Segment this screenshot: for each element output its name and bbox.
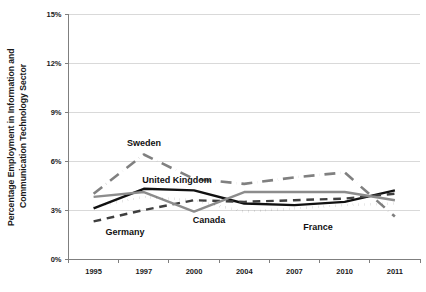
x-tick-label: 2011 [387, 267, 403, 276]
y-tick-label: 3% [51, 206, 62, 215]
x-tick-label: 1995 [85, 267, 102, 276]
x-tick-label: 2007 [286, 267, 303, 276]
x-tick-label: 2000 [186, 267, 203, 276]
y-tick-label: 12% [46, 59, 61, 68]
series-label-sweden: Sweden [127, 138, 161, 148]
x-tick-label: 1997 [135, 267, 152, 276]
series-line-sweden [94, 154, 395, 216]
chart-canvas: 0%3%6%9%12%15% 1995199720002004200720102… [0, 0, 426, 292]
series-label-united-kingdom: United Kingdom [142, 175, 212, 185]
y-tick-label: 9% [51, 108, 62, 117]
y-tick-label: 6% [51, 157, 62, 166]
y-axis-tick-labels: 0%3%6%9%12%15% [46, 10, 61, 264]
gridlines [69, 14, 421, 210]
ict-employment-line-chart: 0%3%6%9%12%15% 1995199720002004200720102… [0, 0, 426, 292]
series-label-france: France [303, 222, 333, 232]
x-axis-tick-labels: 1995199720002004200720102011 [85, 267, 403, 276]
x-tick-label: 2010 [336, 267, 353, 276]
data-series-group [94, 154, 395, 221]
y-axis-title: Percentage Employment in Information and… [6, 46, 28, 226]
y-axis-tick-marks [65, 14, 69, 259]
series-label-canada: Canada [193, 215, 227, 225]
series-line-germany [94, 194, 395, 222]
y-tick-label: 15% [46, 10, 61, 19]
x-tick-label: 2004 [236, 267, 254, 276]
y-tick-label: 0% [51, 255, 62, 264]
series-annotations: SwedenUnited KingdomGermanyCanadaFrance [105, 138, 332, 237]
series-label-germany: Germany [105, 227, 144, 237]
